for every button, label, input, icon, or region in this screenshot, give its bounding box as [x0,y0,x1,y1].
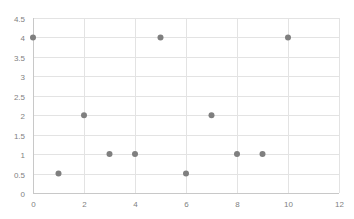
y-axis-tick-labels: 00.511.522.533.544.5 [14,15,26,199]
scatter-point [56,171,62,177]
scatter-point [183,171,189,177]
y-tick-label: 1.5 [14,132,26,141]
scatter-point [107,151,113,157]
x-tick-label: 0 [31,200,36,209]
x-tick-label: 2 [82,200,87,209]
scatter-point [234,151,240,157]
scatter-point [209,112,215,118]
data-points [30,34,291,176]
x-tick-label: 8 [235,200,240,209]
y-tick-label: 3.5 [14,54,26,63]
x-tick-label: 6 [184,200,189,209]
scatter-point [30,34,36,40]
scatter-point [158,34,164,40]
x-tick-label: 12 [335,200,344,209]
y-tick-label: 0 [21,190,26,199]
scatter-point [81,112,87,118]
y-tick-label: 2 [21,112,26,121]
scatter-point [132,151,138,157]
y-tick-label: 2.5 [14,93,26,102]
x-tick-label: 10 [284,200,293,209]
scatter-point [285,34,291,40]
x-axis-tick-labels: 024681012 [31,200,344,209]
y-tick-label: 1 [21,151,26,160]
x-tick-label: 4 [133,200,138,209]
y-tick-label: 3 [21,73,26,82]
scatter-chart: 00.511.522.533.544.5 024681012 [0,0,354,219]
gridlines [33,18,340,193]
y-tick-label: 4.5 [14,15,26,24]
y-tick-label: 4 [21,34,26,43]
scatter-point [260,151,266,157]
y-tick-label: 0.5 [14,171,26,180]
